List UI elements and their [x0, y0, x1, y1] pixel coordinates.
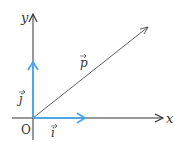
- vector-p: [33, 27, 148, 118]
- vector-diagram: y x O p j i: [0, 0, 184, 149]
- y-axis-label: y: [20, 10, 29, 25]
- vector-i: [33, 113, 85, 123]
- vector-p-label: p: [80, 56, 88, 70]
- vector-j: [28, 62, 38, 118]
- x-axis-label: x: [166, 111, 174, 126]
- vector-i-label: i: [51, 126, 55, 140]
- vector-j-label: j: [16, 92, 23, 106]
- origin-label: O: [21, 123, 31, 137]
